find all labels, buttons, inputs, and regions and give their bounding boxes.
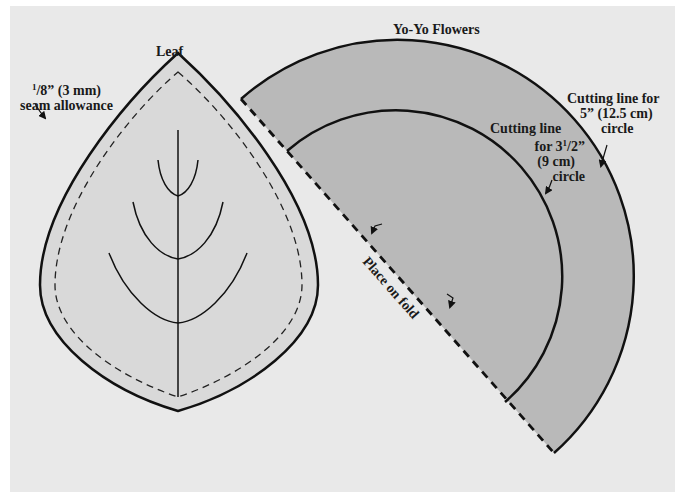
leaf-title: Leaf xyxy=(156,44,183,59)
outer-label-line2: 5” (12.5 cm) xyxy=(567,106,660,121)
yoyo-title-text: Yo-Yo Flowers xyxy=(393,22,480,37)
seam-allowance-line2: seam allowance xyxy=(20,98,113,113)
outer-label-line1: Cutting line for xyxy=(567,91,660,106)
yoyo-title: Yo-Yo Flowers xyxy=(393,22,480,37)
seam-fraction-rest: /8” (3 mm) xyxy=(36,83,101,98)
inner-label-line2-post: /2” xyxy=(567,139,585,154)
inner-label-line2-pre: for 3 xyxy=(534,139,562,154)
seam-allowance-label: 1/8” (3 mm) seam allowance xyxy=(20,80,113,113)
inner-label-line2: for 31/2” xyxy=(490,136,585,154)
inner-label-line3: (9 cm) xyxy=(490,154,585,169)
pattern-drawing xyxy=(0,0,685,492)
leaf-title-text: Leaf xyxy=(156,44,183,59)
seam-allowance-line1: 1/8” (3 mm) xyxy=(20,80,113,98)
inner-label-line1: Cutting line xyxy=(490,121,585,136)
inner-circle-label: Cutting line for 31/2” (9 cm) circle xyxy=(490,121,585,184)
inner-label-line4: circle xyxy=(490,169,585,184)
